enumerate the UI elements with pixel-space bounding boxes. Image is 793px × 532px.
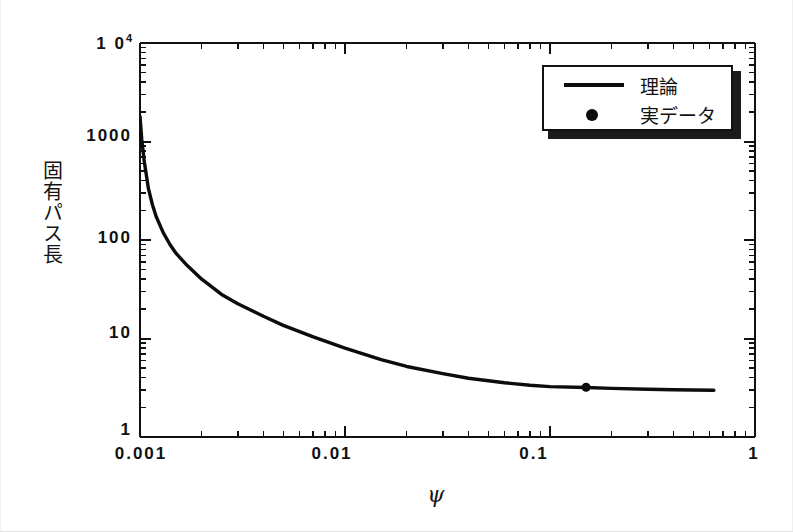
figure-page: 固有パス長 1 04 1000 100 10 1 0.001 0.01 0.1 … bbox=[0, 0, 793, 532]
y-tick-label-100: 100 bbox=[48, 228, 132, 248]
x-axis-title: ψ bbox=[406, 482, 466, 507]
legend-box: 理論 実データ bbox=[542, 65, 733, 131]
x-tick-label-0.01: 0.01 bbox=[282, 444, 382, 464]
x-axis-ticks-top bbox=[140, 43, 755, 54]
y-axis-ticks-right bbox=[744, 43, 755, 437]
legend-label-observed: 実データ bbox=[640, 101, 716, 128]
legend-item-theory: 理論 bbox=[544, 70, 731, 100]
legend-key-observed bbox=[556, 99, 630, 129]
x-tick-label-0.001: 0.001 bbox=[85, 444, 197, 464]
x-tick-label-0.1: 0.1 bbox=[488, 444, 580, 464]
y-axis-title: 固有パス長 bbox=[28, 160, 62, 265]
y-axis-ticks bbox=[140, 43, 151, 437]
dot-swatch-icon bbox=[586, 109, 598, 121]
legend-item-observed: 実データ bbox=[544, 99, 731, 129]
y-tick-exponent: 4 bbox=[126, 32, 132, 44]
y-tick-label-10000: 1 04 bbox=[60, 32, 132, 54]
x-tick-label-1: 1 bbox=[716, 444, 792, 464]
line-swatch-icon bbox=[564, 83, 624, 87]
theory-curve-line bbox=[140, 116, 714, 390]
x-axis-ticks bbox=[140, 426, 755, 437]
y-tick-label-10: 10 bbox=[48, 323, 132, 343]
legend-label-theory: 理論 bbox=[640, 72, 678, 99]
data-point bbox=[582, 383, 591, 392]
y-tick-label-1000: 1000 bbox=[48, 126, 132, 146]
legend-key-theory bbox=[556, 70, 630, 100]
observed-data-points bbox=[582, 383, 591, 392]
y-tick-label-1: 1 bbox=[48, 420, 132, 440]
